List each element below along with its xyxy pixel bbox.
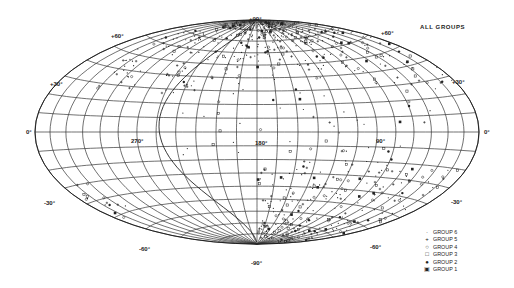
object-point [386,165,387,166]
object-point [334,208,335,209]
object-point [383,186,384,187]
object-point [357,120,358,121]
object-point [270,65,271,66]
object-point [366,161,367,162]
object-point [298,232,299,233]
object-point [292,200,293,201]
object-point [123,70,124,71]
object-point [273,49,275,51]
object-point [330,54,331,55]
object-point [277,35,278,36]
object-point [418,79,420,81]
object-point [344,223,345,224]
object-point [231,40,232,41]
object-point [442,176,444,178]
object-point [228,25,229,26]
object-point [267,203,268,204]
object-point [364,45,365,46]
object-point [246,55,247,56]
object-point [274,38,275,39]
object-point [318,68,319,69]
object-point [282,210,283,211]
object-point [265,231,266,232]
object-point [295,29,296,30]
object-point [165,89,166,90]
object-point [342,216,343,217]
object-point [198,40,199,41]
object-point [200,39,201,40]
object-point [320,77,321,78]
object-point [302,165,304,167]
object-point [429,191,430,192]
object-point [264,233,265,234]
object-point [387,150,389,152]
object-point [251,26,253,28]
object-point [406,176,407,177]
object-point [278,240,279,241]
object-point [262,199,264,201]
object-point [114,72,115,73]
object-point [408,105,410,107]
object-point [429,110,430,111]
object-point [227,28,228,29]
object-point [185,68,186,69]
object-point [320,31,322,33]
object-point [302,203,304,205]
object-point [344,199,345,200]
object-point [408,101,410,103]
object-point [275,37,276,38]
legend-label: GROUP 1 [433,266,457,273]
object-point [134,84,135,85]
object-point [125,60,126,61]
object-point [257,54,258,55]
object-point [303,231,304,232]
object-point [442,74,443,75]
object-point [313,184,314,185]
object-point [120,81,122,83]
object-point [280,200,281,201]
object-point [257,178,260,181]
object-point [381,207,383,209]
object-point [258,60,259,61]
object-point [249,56,251,58]
object-point [363,124,364,125]
object-point [320,171,321,172]
object-point [238,152,239,153]
object-point [342,232,345,235]
object-point [441,80,443,82]
object-point [275,224,276,225]
object-point [289,151,291,153]
legend-item-group-2: ● GROUP 2 [424,259,457,266]
object-point [132,61,133,62]
object-point [300,40,301,41]
object-point [191,85,192,86]
object-point [153,43,155,45]
object-point [447,170,448,171]
object-point [319,227,320,228]
object-point [319,60,320,61]
object-point [398,50,400,52]
legend-item-group-1: ▣ GROUP 1 [424,266,457,273]
object-point [391,170,393,172]
object-point [129,59,130,60]
object-point [299,206,301,208]
object-point [178,33,179,34]
object-point [346,230,347,231]
object-point [203,34,204,35]
object-point [222,26,224,28]
object-point [204,35,205,36]
object-point [292,238,293,239]
object-point [317,233,318,234]
object-point [288,33,289,34]
object-point [270,201,271,202]
object-point [406,90,408,92]
object-point [238,83,239,84]
object-point [261,33,263,35]
legend-label: GROUP 5 [433,236,457,243]
object-point [380,54,382,56]
object-point [193,89,195,91]
object-point [339,216,341,218]
object-point [264,28,265,29]
object-point [324,228,327,231]
object-point [340,41,343,44]
